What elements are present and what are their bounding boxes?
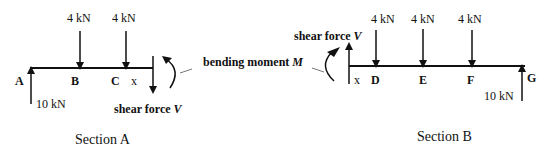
- moment-arc-a: [166, 59, 175, 88]
- point-label-c: C: [111, 75, 120, 87]
- leader-line-b: [312, 68, 324, 72]
- reaction-label-g: 10 kN: [484, 90, 514, 102]
- load-label-e: 4 kN: [411, 13, 435, 25]
- load-label-f: 4 kN: [458, 13, 482, 25]
- reaction-label-a: 10 kN: [36, 98, 66, 110]
- caption-section-a: Section A: [75, 133, 130, 147]
- load-label-d: 4 kN: [371, 13, 395, 25]
- point-label-g: G: [527, 72, 536, 84]
- leader-line-a: [180, 69, 192, 73]
- shear-text-b: shear force: [294, 29, 354, 43]
- section-cut-label-b: x: [354, 74, 360, 86]
- shear-symbol-b: V: [354, 29, 362, 43]
- point-label-a: A: [15, 75, 24, 87]
- moment-arc-b: [325, 52, 334, 81]
- point-label-d: D: [371, 74, 380, 86]
- section-cut-label-a: x: [131, 75, 137, 87]
- point-label-f: F: [467, 74, 474, 86]
- point-label-b: B: [71, 75, 79, 87]
- bending-moment-label: bending moment M: [203, 56, 303, 68]
- caption-section-b: Section B: [417, 130, 472, 144]
- shear-symbol-a: V: [174, 102, 182, 116]
- load-label-c: 4 kN: [112, 12, 136, 24]
- shear-force-label-a: shear force V: [114, 103, 182, 115]
- bending-moment-symbol: M: [292, 55, 303, 69]
- load-label-b: 4 kN: [67, 12, 91, 24]
- point-label-e: E: [419, 74, 427, 86]
- shear-force-label-b: shear force V: [294, 30, 362, 42]
- shear-text-a: shear force: [114, 102, 174, 116]
- bending-moment-text: bending moment: [203, 55, 292, 69]
